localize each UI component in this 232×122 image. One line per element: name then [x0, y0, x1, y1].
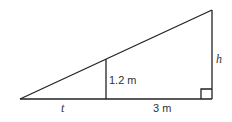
post-height-label: 1.2 m — [109, 75, 137, 86]
right-angle-marker — [201, 89, 212, 99]
height-label: h — [216, 53, 222, 65]
distance-label: 3 m — [153, 103, 171, 114]
triangle-diagram — [0, 0, 232, 122]
shadow-length-label: t — [61, 102, 64, 114]
